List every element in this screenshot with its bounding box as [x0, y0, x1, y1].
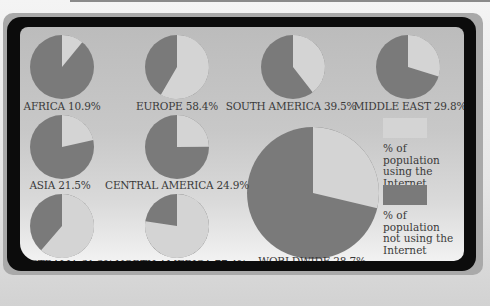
label-worldwide: WORLDWIDE 28.7% — [258, 255, 365, 261]
label-central-america: CENTRAL AMERICA 24.9% — [105, 179, 249, 191]
top-edge-strip — [70, 0, 490, 2]
legend-swatch-using — [383, 118, 427, 138]
label-north-america: NORTH AMERICA 77.4% — [115, 258, 247, 261]
label-australia: AUSTRALIA 61.3% — [20, 258, 113, 261]
pie-africa — [30, 35, 94, 99]
slice-using — [177, 115, 209, 147]
legend-not-line3: Internet — [383, 245, 463, 257]
pie-australia — [30, 194, 94, 258]
label-africa: AFRICA 10.9% — [24, 100, 101, 112]
label-middle-east: MIDDLE EAST 29.8% — [354, 100, 464, 112]
label-europe: EUROPE 58.4% — [136, 100, 218, 112]
pie-asia — [30, 115, 94, 179]
pie-south-america — [261, 35, 325, 99]
pie-central-america — [145, 115, 209, 179]
chart-screen: AFRICA 10.9% EUROPE 58.4% SOUTH AMERICA … — [20, 27, 464, 261]
pie-middle-east — [376, 35, 440, 99]
pie-europe — [145, 35, 209, 99]
legend-not-line1: % of population — [383, 210, 463, 233]
legend-swatch-not-using — [383, 185, 427, 205]
legend-text-using: % of population using the Internet — [383, 143, 463, 189]
legend-not-line2: not using the — [383, 233, 463, 245]
label-south-america: SOUTH AMERICA 39.5% — [226, 100, 357, 112]
legend-using-line1: % of population — [383, 143, 463, 166]
label-asia: ASIA 21.5% — [29, 179, 90, 191]
legend-using-line2: using the — [383, 166, 463, 178]
legend-text-not-using: % of population not using the Internet — [383, 210, 463, 256]
pie-worldwide — [247, 127, 379, 259]
pie-north-america — [145, 194, 209, 258]
